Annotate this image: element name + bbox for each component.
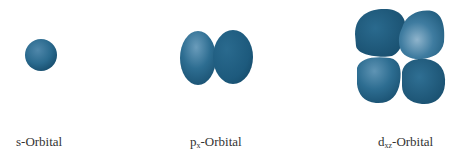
label-suffix: -Orbital [201,134,242,149]
px-orbital-lobes-icon [178,28,254,86]
s-orbital-sphere-icon [24,38,58,72]
px-orbital-label: px-Orbital [190,134,242,150]
s-orbital-label: s-Orbital [16,134,62,150]
label-suffix: -Orbital [21,134,62,149]
dxz-orbital-lobes-icon [352,6,448,106]
label-subscript: xz [385,141,393,150]
px-orbital-figure [178,28,254,86]
dxz-orbital-figure [352,6,448,106]
dxz-orbital-label: dxz-Orbital [378,134,433,150]
label-suffix: -Orbital [392,134,433,149]
s-orbital-figure [24,38,58,72]
